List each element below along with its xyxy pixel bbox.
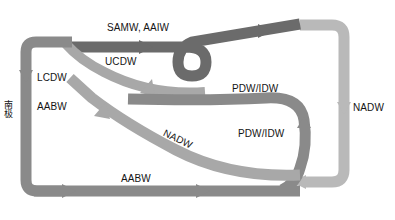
axis-label-antarctic: 南极 [3,100,12,118]
label-pdw-idw-upper: PDW/IDW [232,84,278,94]
label-ucdw: UCDW [105,57,137,67]
aabw-limb [34,184,300,198]
label-nadw-right: NADW [353,103,384,113]
label-aabw-left: AABW [37,102,67,112]
label-lcdw: LCDW [37,73,67,83]
label-samw-aaiw: SAMW, AAIW [107,23,169,33]
lcdw-limb [19,42,72,191]
label-pdw-idw-lower: PDW/IDW [238,129,284,139]
label-aabw-bottom: AABW [121,174,151,184]
circulation-diagram: .band-dark { fill: none; stroke: #6b6b6b… [0,0,395,220]
